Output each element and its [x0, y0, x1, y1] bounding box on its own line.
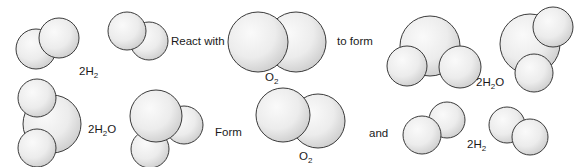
formula-o2-bottom: O2: [299, 151, 312, 163]
oxygen-molecule-top: [228, 12, 326, 72]
element: H: [473, 138, 481, 150]
element: O: [265, 71, 274, 83]
form-label: Form: [215, 127, 242, 139]
water-molecule-top-2: [500, 7, 573, 92]
formula-o2-top: O2: [265, 72, 278, 84]
element: O: [495, 76, 504, 88]
element: O: [107, 123, 116, 135]
hydrogen-molecule-top-1: [16, 18, 79, 69]
formula-2h2-bottom: 2H2: [467, 139, 486, 151]
subscript: 2: [94, 71, 98, 80]
to-form-label: to form: [337, 36, 373, 48]
formula-2h2-top: 2H2: [79, 66, 98, 78]
formula-2h2o-bottom: 2H2O: [88, 124, 116, 136]
react-with-label: React with: [171, 36, 225, 48]
element: H: [482, 76, 490, 88]
subscript: 2: [274, 77, 278, 86]
subscript: 2: [482, 144, 486, 153]
water-molecule-top-1: [387, 16, 481, 88]
water-molecule-bottom-1: [18, 79, 81, 167]
element: H: [85, 65, 93, 77]
formula-2h2o-top: 2H2O: [476, 77, 504, 89]
element: O: [299, 150, 308, 162]
hydrogen-molecule-top-2: [108, 12, 168, 60]
oxygen-molecule-bottom: [256, 88, 345, 148]
water-molecule-bottom-2: [130, 90, 203, 167]
and-label: and: [369, 128, 388, 140]
element: H: [94, 123, 102, 135]
subscript: 2: [308, 156, 312, 165]
hydrogen-molecule-bottom-2: [489, 107, 548, 155]
hydrogen-molecule-bottom-1: [403, 102, 465, 154]
